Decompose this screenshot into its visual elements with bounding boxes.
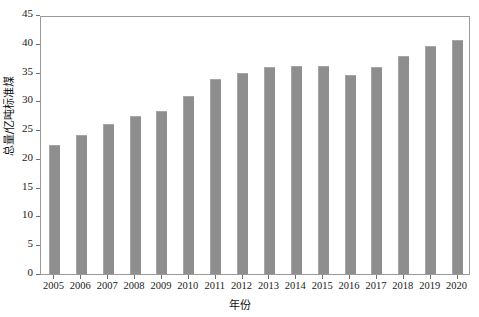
y-tick-mark (36, 188, 40, 189)
x-tick-label: 2009 (150, 281, 171, 292)
y-tick-label: 10 (22, 209, 33, 220)
bar (371, 67, 382, 274)
x-tick-mark (403, 275, 404, 279)
bar (76, 135, 87, 274)
x-tick-label: 2006 (70, 281, 91, 292)
bar (210, 79, 221, 274)
plot-area (40, 16, 470, 275)
y-tick-mark (36, 101, 40, 102)
x-tick-mark (161, 275, 162, 279)
y-tick-label: 15 (22, 181, 33, 192)
x-axis-title: 年份 (0, 296, 479, 312)
x-tick-label: 2016 (339, 281, 360, 292)
bar (103, 124, 114, 274)
x-tick-mark (322, 275, 323, 279)
x-tick-mark (134, 275, 135, 279)
bar (345, 75, 356, 274)
y-tick-label: 35 (22, 66, 33, 77)
bar (130, 116, 141, 274)
bar (183, 96, 194, 274)
x-tick-label: 2011 (204, 281, 225, 292)
bar (264, 67, 275, 274)
y-tick-mark (36, 274, 40, 275)
y-tick-label: 20 (22, 152, 33, 163)
y-tick-label: 40 (22, 37, 33, 48)
x-tick-mark (107, 275, 108, 279)
x-tick-label: 2010 (177, 281, 198, 292)
bar (49, 145, 60, 274)
x-tick-mark (53, 275, 54, 279)
x-tick-label: 2018 (392, 281, 413, 292)
x-tick-label: 2014 (285, 281, 306, 292)
x-tick-mark (349, 275, 350, 279)
x-tick-mark (457, 275, 458, 279)
x-tick-mark (80, 275, 81, 279)
y-tick-mark (36, 216, 40, 217)
y-tick-label: 5 (28, 238, 34, 249)
x-tick-mark (376, 275, 377, 279)
bar-chart: 051015202530354045 200520062007200820092… (0, 0, 479, 317)
x-tick-label: 2012 (231, 281, 252, 292)
bar (398, 56, 409, 274)
y-tick-mark (36, 159, 40, 160)
y-tick-mark (36, 73, 40, 74)
bar (318, 66, 329, 274)
x-tick-label: 2020 (446, 281, 467, 292)
bar (156, 111, 167, 274)
x-tick-mark (268, 275, 269, 279)
bars-layer (41, 17, 469, 274)
bar (291, 66, 302, 274)
y-tick-mark (36, 245, 40, 246)
y-tick-label: 25 (22, 123, 33, 134)
x-tick-mark (242, 275, 243, 279)
y-tick-label: 0 (28, 267, 34, 278)
x-tick-mark (215, 275, 216, 279)
y-tick-label: 30 (22, 94, 33, 105)
y-axis-title: 总量/亿吨标准煤 (0, 56, 16, 176)
bar (237, 73, 248, 274)
y-tick-label: 45 (22, 8, 33, 19)
bar (452, 40, 463, 274)
x-tick-label: 2015 (312, 281, 333, 292)
x-tick-mark (430, 275, 431, 279)
y-tick-mark (36, 44, 40, 45)
x-tick-mark (188, 275, 189, 279)
x-tick-mark (295, 275, 296, 279)
x-tick-label: 2007 (97, 281, 118, 292)
x-tick-label: 2008 (124, 281, 145, 292)
bar (425, 46, 436, 274)
y-tick-mark (36, 15, 40, 16)
x-tick-label: 2005 (43, 281, 64, 292)
x-tick-label: 2019 (419, 281, 440, 292)
x-tick-label: 2013 (258, 281, 279, 292)
x-tick-label: 2017 (365, 281, 386, 292)
y-tick-mark (36, 130, 40, 131)
